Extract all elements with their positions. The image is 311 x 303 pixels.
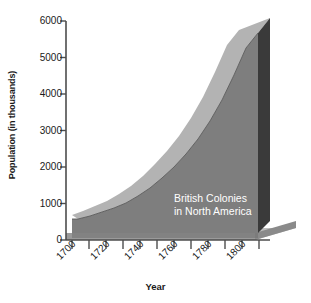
x-axis-title: Year <box>0 281 311 292</box>
series-annotation: British Colonies in North America <box>174 192 252 217</box>
y-axis-title: Population (in thousands) <box>2 0 22 250</box>
y-axis-tick-labels: 6000 5000 4000 3000 2000 1000 0 <box>26 0 62 260</box>
y-tick-label-0: 0 <box>28 235 62 245</box>
y-tick-label-2000: 2000 <box>28 162 62 172</box>
population-area-chart: Population (in thousands) 6000 5000 4000… <box>0 0 311 303</box>
y-tick-label-6000: 6000 <box>28 16 62 26</box>
y-axis-title-text: Population (in thousands) <box>7 71 17 180</box>
y-tick-label-4000: 4000 <box>28 89 62 99</box>
y-tick-label-1000: 1000 <box>28 199 62 209</box>
area-side-face <box>258 18 270 233</box>
y-tick-label-5000: 5000 <box>28 53 62 63</box>
y-tick-label-3000: 3000 <box>28 126 62 136</box>
area-base-ledge <box>72 233 258 238</box>
series-annotation-line-1: British Colonies <box>174 192 252 205</box>
series-annotation-line-2: in North America <box>174 205 252 218</box>
